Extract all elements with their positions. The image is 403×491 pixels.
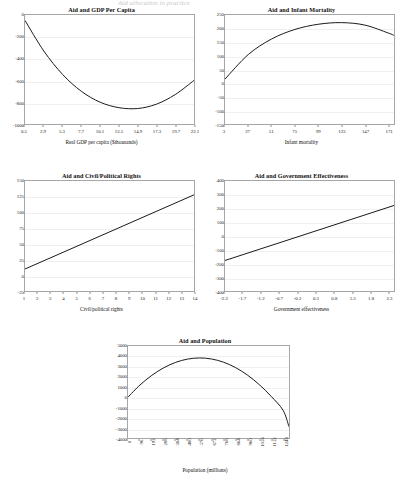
x-axis-tick-label: 5 [75,296,77,301]
x-axis-tick-mark [142,292,143,294]
x-axis-tick-label: 7.7 [78,129,84,134]
plot-wrapper: 4003002001000-100-200-300-400-2.2-1.7-1.… [202,180,401,323]
x-axis-tick-mark [260,292,261,294]
series-line [25,15,194,124]
y-axis-tick-label: -400 [202,290,226,295]
y-axis-tick-label: -1000 [102,405,129,410]
x-axis-tick-mark [371,292,372,294]
x-axis-label: Population (millions) [102,467,308,473]
y-axis-tick-label: 50 [2,242,26,247]
y-axis-tick-label: 3000 [102,363,129,368]
y-axis-tick-label: 100 [202,53,226,58]
x-axis-tick-label: 10 [140,296,145,301]
x-axis-tick-label: 1 [23,296,25,301]
x-axis-tick-mark [138,125,139,127]
chart-title: Aid and Civil/Political Rights [2,172,201,180]
y-axis-tick-label: -3000 [102,426,129,431]
y-axis-tick-label: -400 [2,56,26,61]
y-axis-tick-label: 0 [2,274,26,279]
x-axis-tick-mark [81,125,82,127]
chart-title: Aid and Infant Mortality [202,6,401,14]
series-line [25,181,194,291]
x-axis-tick-label: 288 [163,438,168,445]
x-axis-tick-mark [116,292,117,294]
x-axis-tick-mark [315,292,316,294]
y-axis-tick-label: 150 [202,39,226,44]
x-axis-tick-mark [155,292,156,294]
x-axis-tick-mark [247,125,248,127]
x-axis-tick-label: 1056 [260,437,265,447]
y-axis-tick-label: 100 [2,210,26,215]
y-axis-tick-label: 0 [202,81,226,86]
plot-area [127,345,290,439]
x-axis-tick-mark [37,292,38,294]
y-axis-tick-label: 0 [102,395,129,400]
y-axis-tick-label: 2000 [102,374,129,379]
x-axis-tick-label: 2 [36,296,38,301]
x-axis-tick-mark [195,292,196,294]
y-axis-tick-label: 400 [202,178,226,183]
y-axis-tick-label: -150 [202,123,226,128]
x-axis-tick-mark [271,125,272,127]
y-axis-tick-label: -2000 [102,416,129,421]
y-axis-tick-label: 200 [202,206,226,211]
x-axis-tick-mark [334,292,335,294]
chart-aid-government-effectiveness: Aid and Government Effectiveness40030020… [202,172,401,328]
x-axis-tick-mark [242,292,243,294]
y-axis-tick-label: -300 [202,276,226,281]
y-axis-tick-label: 125 [2,194,26,199]
chart-title: Aid and Population [102,337,308,345]
x-axis-tick-mark [389,125,390,127]
x-axis-tick-label: 0.5 [21,129,27,134]
y-axis-tick-label: -100 [202,248,226,253]
x-axis-tick-mark [365,125,366,127]
x-axis-tick-label: 171 [385,129,392,134]
x-axis-tick-mark [318,125,319,127]
y-axis-tick-label: -200 [202,262,226,267]
plot-area [24,180,195,292]
x-axis-tick-label: 768 [224,438,229,445]
x-axis-tick-label: 123 [338,129,345,134]
series-line [225,181,394,291]
y-axis-tick-label: -50 [202,95,226,100]
x-axis-tick-mark [102,292,103,294]
x-axis-tick-mark [389,292,390,294]
x-axis-tick-label: 1248 [284,437,289,447]
x-axis-tick-label: 27 [245,129,250,134]
x-axis-tick-label: 2.9 [40,129,46,134]
x-axis-tick-label: 4 [62,296,64,301]
y-axis-tick-label: -200 [2,34,26,39]
x-axis-tick-label: 3 [49,296,51,301]
y-axis-tick-label: -100 [202,109,226,114]
x-axis-tick-mark [43,125,44,127]
x-axis-tick-mark [224,292,225,294]
x-axis-tick-label: 192 [151,438,156,445]
x-axis-tick-label: 19.7 [172,129,180,134]
chart-aid-infant-mortality: Aid and Infant Mortality250200150100500-… [202,6,401,160]
x-axis-tick-label: 864 [236,438,241,445]
y-axis-tick-label: 200 [202,25,226,30]
x-axis-tick-mark [297,292,298,294]
x-axis-tick-mark [63,292,64,294]
chart-title: Aid and GDP Per Capita [2,6,201,14]
x-axis-tick-label: 8 [115,296,117,301]
x-axis-tick-label: 1.8 [368,296,374,301]
x-axis-label: Government effectiveness [202,306,401,312]
y-axis-tick-label: 150 [2,178,26,183]
plot-wrapper: 0-200-400-600-800-10000.52.95.37.710.112… [2,14,201,155]
x-axis-tick-mark [341,125,342,127]
x-axis-tick-label: 5.3 [59,129,65,134]
chart-aid-gdp-per-capita: Aid and GDP Per Capita0-200-400-600-800-… [2,6,201,160]
x-axis-tick-mark [76,292,77,294]
x-axis-tick-mark [195,125,196,127]
x-axis-tick-label: 17.3 [153,129,161,134]
x-axis-label: Civil/political rights [2,306,201,312]
y-axis-tick-label: 75 [2,226,26,231]
x-axis-tick-label: -1.2 [257,296,265,301]
chart-title: Aid and Government Effectiveness [202,172,401,180]
y-axis-tick-label: -4000 [102,437,129,442]
y-axis-tick-label: 300 [202,192,226,197]
x-axis-tick-label: 960 [248,438,253,445]
chart-aid-civil-political-rights: Aid and Civil/Political Rights1501251007… [2,172,201,328]
plot-wrapper: 500040003000200010000-1000-2000-3000-400… [102,345,308,484]
